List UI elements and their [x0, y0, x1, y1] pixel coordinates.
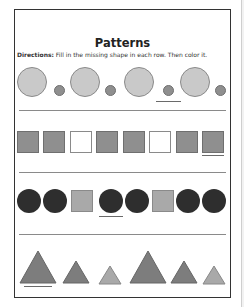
small-triangle-shape[interactable] [202, 265, 226, 285]
answer-underline [202, 155, 224, 156]
large-circle-shape[interactable] [124, 67, 154, 97]
gray-square-shape[interactable] [123, 131, 145, 153]
medium-triangle-shape[interactable] [62, 260, 90, 284]
small-circle-shape[interactable] [54, 85, 65, 96]
gray-square-shape[interactable] [96, 131, 118, 153]
worksheet-title: Patterns [15, 36, 230, 50]
dark-circle-shape[interactable] [43, 189, 67, 213]
large-circle-shape[interactable] [17, 67, 47, 97]
row-divider [19, 110, 226, 111]
directions-label: Directions: [17, 51, 54, 58]
gray-square-shape[interactable] [43, 131, 65, 153]
large-circle-shape[interactable] [180, 67, 210, 97]
gray-square-shape[interactable] [152, 190, 174, 212]
dark-circle-shape[interactable] [202, 189, 226, 213]
answer-underline [24, 286, 52, 287]
small-triangle-shape[interactable] [98, 265, 122, 285]
dark-circle-shape[interactable] [176, 189, 200, 213]
dark-circle-shape[interactable] [99, 189, 123, 213]
white-square-shape[interactable] [149, 131, 171, 153]
gray-square-shape[interactable] [176, 131, 198, 153]
medium-triangle-shape[interactable] [170, 260, 198, 284]
answer-underline [156, 101, 181, 102]
row-divider [19, 234, 226, 235]
small-circle-shape[interactable] [215, 85, 226, 96]
small-circle-shape[interactable] [163, 85, 174, 96]
large-triangle-shape[interactable] [129, 250, 167, 284]
dark-circle-shape[interactable] [17, 189, 41, 213]
large-triangle-shape[interactable] [19, 250, 57, 284]
directions: Directions: Fill in the missing shape in… [17, 51, 207, 58]
gray-square-shape[interactable] [71, 190, 93, 212]
answer-underline [99, 216, 123, 217]
dark-circle-shape[interactable] [125, 189, 149, 213]
row-divider [19, 172, 226, 173]
small-circle-shape[interactable] [105, 85, 116, 96]
gray-square-shape[interactable] [202, 131, 224, 153]
worksheet: Patterns Directions: Fill in the missing… [14, 9, 231, 298]
directions-text: Fill in the missing shape in each row. T… [54, 51, 207, 58]
white-square-shape[interactable] [70, 131, 92, 153]
large-circle-shape[interactable] [70, 67, 100, 97]
gray-square-shape[interactable] [17, 131, 39, 153]
page-edge [241, 0, 244, 307]
